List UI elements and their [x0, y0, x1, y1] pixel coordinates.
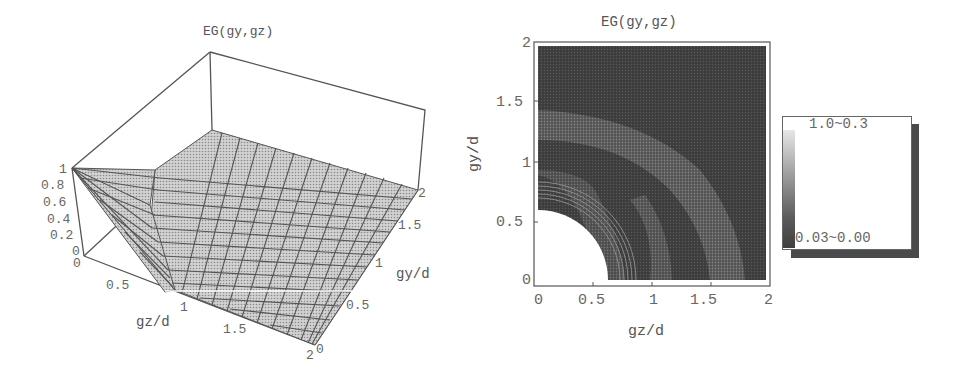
legend-shadow-bottom — [791, 249, 919, 258]
y-axis-label: gy/d — [466, 136, 483, 172]
x-tick-0.5: 0.5 — [578, 292, 605, 309]
legend-bottom-label: 0.03~0.00 — [795, 230, 871, 246]
legend-top-label: 1.0~0.3 — [809, 116, 868, 132]
x-tick-2: 2 — [764, 292, 773, 309]
y-tick-2: 2 — [522, 35, 531, 52]
x-tick-1: 1 — [649, 292, 658, 309]
legend-shadow-right — [911, 124, 919, 258]
y-tick-0.5: 0.5 — [496, 214, 523, 231]
y-tick-0: 0 — [522, 272, 531, 289]
x-axis-label: gz/d — [628, 323, 664, 340]
x-tick-0: 0 — [534, 292, 543, 309]
legend-gradient-bar — [783, 130, 795, 248]
y-tick-1.5: 1.5 — [496, 94, 523, 111]
y-tick-1: 1 — [522, 155, 531, 172]
x-tick-1.5: 1.5 — [690, 292, 717, 309]
